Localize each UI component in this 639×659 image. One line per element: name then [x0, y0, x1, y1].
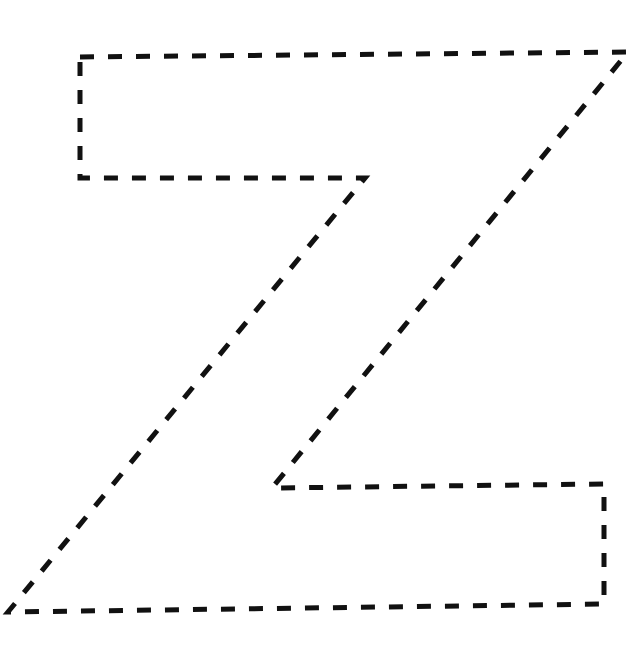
letter-z-dashed-outline	[0, 0, 639, 659]
tracing-canvas: Z	[0, 0, 639, 659]
z-outline-path	[8, 52, 628, 612]
